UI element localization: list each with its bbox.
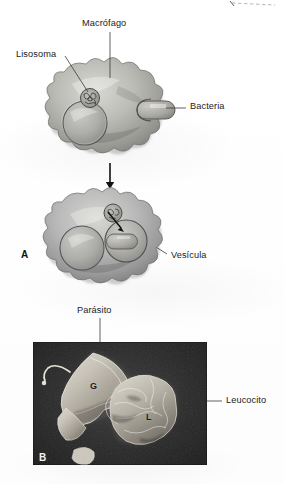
micrograph-grain (33, 342, 207, 465)
figure-page: Macrófago Lisosoma Bacteria Vesícula (0, 0, 284, 484)
panel-b-letter: B (39, 452, 46, 463)
parasite-marker-g: G (90, 381, 97, 391)
leukocyte-marker-l: L (146, 412, 152, 422)
